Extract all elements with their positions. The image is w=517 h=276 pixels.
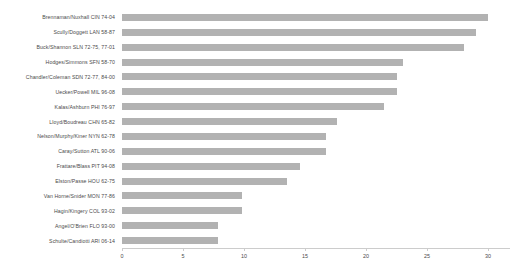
bar-row <box>122 55 510 70</box>
y-axis-label: Uecker/Powell MIL 96-08 <box>55 89 118 95</box>
bar-row <box>122 84 510 99</box>
y-axis-label-row: Schulte/Candiotti ARI 06-14 <box>0 233 118 248</box>
y-axis-label: Frattare/Blass PIT 94-08 <box>57 163 118 169</box>
x-tick-mark <box>366 248 367 251</box>
bar-row <box>122 203 510 218</box>
y-axis-label-row: Uecker/Powell MIL 96-08 <box>0 84 118 99</box>
bar-row <box>122 70 510 85</box>
bar <box>122 133 326 140</box>
y-axis-label-row: Angel/O'Brien FLO 93-00 <box>0 218 118 233</box>
bar-row <box>122 25 510 40</box>
bar <box>122 148 326 155</box>
y-axis-label-row: Chandler/Coleman SDN 72-77, 84-00 <box>0 70 118 85</box>
bar <box>122 73 397 80</box>
y-axis-label-row: Kalas/Ashburn PHI 76-97 <box>0 99 118 114</box>
y-axis-label-row: Hagin/Kingery COL 93-02 <box>0 203 118 218</box>
bar-row <box>122 144 510 159</box>
y-axis-label-row: Elston/Passe HOU 62-75 <box>0 174 118 189</box>
bar-row <box>122 114 510 129</box>
y-axis-label: Van Horne/Snider MON 77-86 <box>44 193 118 199</box>
y-axis-label: Chandler/Coleman SDN 72-77, 84-00 <box>26 74 118 80</box>
bar <box>122 29 476 36</box>
y-axis-label: Elston/Passe HOU 62-75 <box>55 178 118 184</box>
bar-row <box>122 99 510 114</box>
bar-row <box>122 40 510 55</box>
y-axis-label-row: Brennaman/Nuxhall CIN 74-04 <box>0 10 118 25</box>
bar <box>122 44 464 51</box>
x-tick-mark <box>305 248 306 251</box>
y-axis-label: Kalas/Ashburn PHI 76-97 <box>55 104 118 110</box>
bar-row <box>122 10 510 25</box>
y-axis-category-labels: Brennaman/Nuxhall CIN 74-04Scully/Dogget… <box>0 10 118 248</box>
x-tick-label: 10 <box>241 253 247 259</box>
bar-chart: Brennaman/Nuxhall CIN 74-04Scully/Dogget… <box>0 0 517 276</box>
bar <box>122 103 384 110</box>
x-tick-label: 5 <box>181 253 184 259</box>
bar <box>122 88 397 95</box>
y-axis-label-row: Nelson/Murphy/Kiner NYN 62-78 <box>0 129 118 144</box>
y-axis-label: Angel/O'Brien FLO 93-00 <box>55 223 118 229</box>
bar <box>122 192 242 199</box>
bar <box>122 207 242 214</box>
bar-row <box>122 233 510 248</box>
bar <box>122 237 218 244</box>
y-axis-label-row: Lloyd/Boudreau CHN 65-82 <box>0 114 118 129</box>
x-tick-mark <box>427 248 428 251</box>
bar-row <box>122 174 510 189</box>
x-axis-line <box>122 248 510 249</box>
bar-row <box>122 189 510 204</box>
x-tick-label: 0 <box>120 253 123 259</box>
plot-area <box>122 10 510 248</box>
x-tick-mark <box>244 248 245 251</box>
x-tick-mark <box>183 248 184 251</box>
x-tick-label: 15 <box>302 253 308 259</box>
bar <box>122 163 300 170</box>
bar <box>122 222 218 229</box>
y-axis-label: Caray/Sutton ATL 90-06 <box>58 148 118 154</box>
x-tick-label: 20 <box>363 253 369 259</box>
y-axis-label-row: Caray/Sutton ATL 90-06 <box>0 144 118 159</box>
y-axis-label: Lloyd/Boudreau CHN 65-82 <box>49 119 118 125</box>
bar-row <box>122 159 510 174</box>
y-axis-label-row: Buck/Shannon SLN 72-75, 77-01 <box>0 40 118 55</box>
bar <box>122 59 403 66</box>
x-tick-mark <box>488 248 489 251</box>
bar-row <box>122 218 510 233</box>
x-tick-mark <box>122 248 123 251</box>
y-axis-label: Hodges/Simmons SFN 58-70 <box>46 59 118 65</box>
bar <box>122 14 488 21</box>
x-tick-label: 30 <box>485 253 491 259</box>
y-axis-label: Scully/Doggett LAN 58-87 <box>53 29 118 35</box>
y-axis-label-row: Hodges/Simmons SFN 58-70 <box>0 55 118 70</box>
x-tick-label: 25 <box>424 253 430 259</box>
y-axis-label: Hagin/Kingery COL 93-02 <box>54 208 118 214</box>
y-axis-label: Nelson/Murphy/Kiner NYN 62-78 <box>37 133 118 139</box>
y-axis-label-row: Frattare/Blass PIT 94-08 <box>0 159 118 174</box>
bar-row <box>122 129 510 144</box>
bar <box>122 178 287 185</box>
y-axis-label: Buck/Shannon SLN 72-75, 77-01 <box>37 44 118 50</box>
bar <box>122 118 337 125</box>
y-axis-label: Schulte/Candiotti ARI 06-14 <box>49 238 118 244</box>
y-axis-label: Brennaman/Nuxhall CIN 74-04 <box>42 14 118 20</box>
y-axis-label-row: Van Horne/Snider MON 77-86 <box>0 189 118 204</box>
y-axis-label-row: Scully/Doggett LAN 58-87 <box>0 25 118 40</box>
